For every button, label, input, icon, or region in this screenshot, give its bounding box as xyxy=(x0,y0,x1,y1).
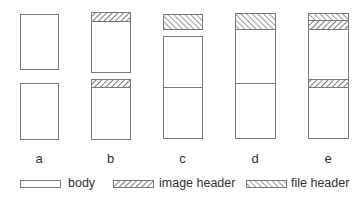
body-block xyxy=(21,84,59,140)
file-header-block xyxy=(164,15,203,30)
column-a xyxy=(21,15,59,140)
body-block xyxy=(164,37,203,88)
legend-swatch-file-header xyxy=(247,181,287,188)
legend-file-header-label: file header xyxy=(291,176,349,190)
image-header-block xyxy=(309,21,349,30)
legend-body-label: body xyxy=(68,176,95,190)
column-label-a: a xyxy=(35,151,42,166)
file-layout-diagram xyxy=(0,0,364,202)
legend-swatch-body xyxy=(21,181,61,188)
file-header-block xyxy=(236,14,276,30)
legend-swatches xyxy=(21,181,287,188)
body-block xyxy=(92,88,131,140)
body-block xyxy=(236,84,276,139)
column-b xyxy=(92,13,131,140)
image-header-block xyxy=(92,80,131,88)
body-block xyxy=(309,30,349,80)
column-label-b: b xyxy=(107,151,114,166)
legend-swatch-image-header xyxy=(114,181,154,188)
body-block xyxy=(309,88,349,139)
body-block xyxy=(21,15,59,70)
columns xyxy=(21,13,349,140)
legend-image-header-label: image header xyxy=(159,176,235,190)
file-header-block xyxy=(309,14,349,21)
image-header-block xyxy=(92,13,131,22)
column-label-d: d xyxy=(251,151,258,166)
image-header-block xyxy=(309,80,349,88)
column-c xyxy=(164,15,203,139)
body-block xyxy=(164,88,203,139)
column-label-c: c xyxy=(179,151,186,166)
column-label-e: e xyxy=(324,151,331,166)
column-d xyxy=(236,14,276,139)
column-e xyxy=(309,14,349,139)
body-block xyxy=(92,22,131,73)
body-block xyxy=(236,30,276,84)
